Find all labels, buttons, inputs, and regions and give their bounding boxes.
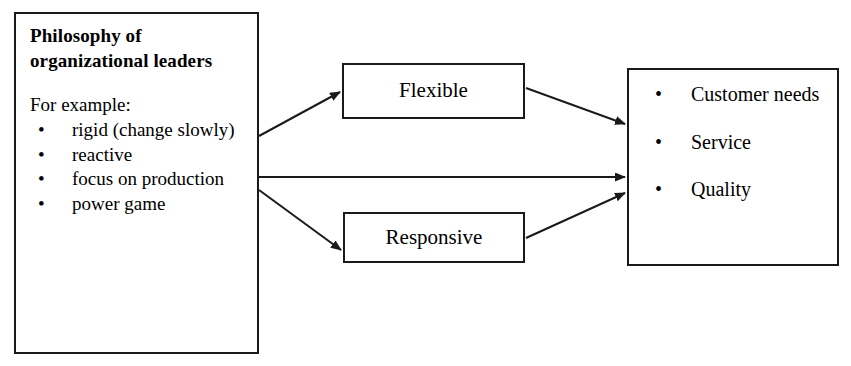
outcomes-bullet-list: • Customer needs • Service • Quality — [645, 82, 831, 203]
outcomes-box: • Customer needs • Service • Quality — [627, 68, 839, 266]
bullet-icon: • — [38, 118, 45, 143]
list-item: • Service — [645, 130, 831, 156]
arrow-philosophy-to-responsive — [259, 190, 341, 250]
list-item-label: rigid (change slowly) — [72, 119, 235, 140]
list-item: • Customer needs — [645, 82, 831, 108]
bullet-icon: • — [655, 130, 662, 156]
arrow-philosophy-to-flexible — [259, 92, 340, 136]
philosophy-box-heading: Philosophy of organizational leaders — [30, 24, 249, 73]
list-item: • Quality — [645, 177, 831, 203]
responsive-box: Responsive — [343, 212, 525, 263]
list-item-label: Service — [691, 131, 751, 153]
arrow-responsive-to-outcomes — [526, 193, 625, 238]
philosophy-bullet-list: • rigid (change slowly) • reactive • foc… — [30, 118, 249, 217]
list-item: • reactive — [30, 143, 249, 168]
list-item-label: reactive — [72, 144, 132, 165]
bullet-icon: • — [38, 143, 45, 168]
bullet-icon: • — [38, 192, 45, 217]
arrow-flexible-to-outcomes — [526, 88, 625, 124]
flexible-box-label: Flexible — [344, 80, 523, 101]
list-item-label: focus on production — [72, 168, 224, 189]
diagram-canvas: Philosophy of organizational leaders For… — [0, 0, 851, 366]
bullet-icon: • — [655, 82, 662, 108]
philosophy-box: Philosophy of organizational leaders For… — [14, 12, 259, 354]
list-item: • rigid (change slowly) — [30, 118, 249, 143]
list-item-label: Customer needs — [691, 83, 819, 105]
bullet-icon: • — [38, 167, 45, 192]
list-item: • focus on production — [30, 167, 249, 192]
philosophy-box-intro: For example: — [30, 93, 249, 118]
list-item-label: power game — [72, 193, 165, 214]
list-item-label: Quality — [691, 178, 751, 200]
responsive-box-label: Responsive — [345, 227, 523, 248]
flexible-box: Flexible — [342, 63, 525, 119]
bullet-icon: • — [655, 177, 662, 203]
list-item: • power game — [30, 192, 249, 217]
